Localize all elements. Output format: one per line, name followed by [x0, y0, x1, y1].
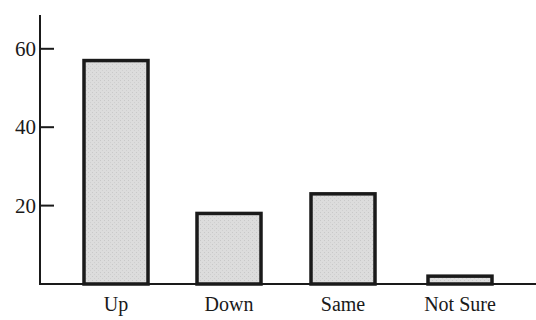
y-axis: 204060: [15, 15, 54, 285]
bar-up: [84, 61, 148, 284]
bar-not-sure: [428, 276, 492, 284]
bar-down: [197, 213, 261, 284]
x-tick-label: Down: [205, 293, 254, 315]
bar-chart: 204060 UpDownSameNot Sure: [0, 0, 536, 320]
x-tick-label: Same: [321, 293, 366, 315]
x-tick-label: Up: [104, 293, 128, 316]
y-tick-label: 20: [15, 194, 36, 218]
x-tick-label: Not Sure: [424, 293, 496, 315]
bars-group: [84, 61, 492, 284]
y-tick-label: 60: [15, 37, 36, 61]
y-tick-label: 40: [15, 115, 36, 139]
bar-same: [311, 194, 375, 284]
x-axis: UpDownSameNot Sure: [39, 284, 536, 316]
